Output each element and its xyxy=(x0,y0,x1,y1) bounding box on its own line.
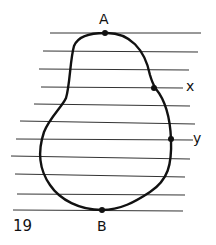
point-a-dot xyxy=(102,30,108,36)
label-y: y xyxy=(193,131,201,145)
pear-shape-diagram xyxy=(0,0,216,245)
point-x-dot xyxy=(151,85,157,91)
figure-number: 19 xyxy=(13,219,32,233)
horizontal-lines xyxy=(11,33,201,211)
point-y-dot xyxy=(168,136,174,142)
label-a: A xyxy=(99,12,109,26)
label-x: x xyxy=(186,79,194,93)
point-b-dot xyxy=(99,207,105,213)
figure-19: A x y B 19 xyxy=(0,0,216,245)
label-b: B xyxy=(97,219,107,233)
